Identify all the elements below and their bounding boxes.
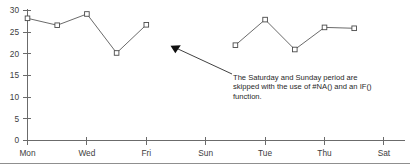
line-chart-canvas: 0 5 10 15 20 25 30 Mon Wed Fri Sun Tue T… xyxy=(0,0,410,167)
y-tick-label-5: 5 xyxy=(14,114,19,124)
x-tick-label-fri: Fri xyxy=(141,148,151,158)
data-point-tue-1 xyxy=(55,23,60,28)
y-tick-label-10: 10 xyxy=(10,92,20,102)
y-tick-label-0: 0 xyxy=(14,135,19,145)
data-point-thu-10 xyxy=(322,25,327,30)
chart-figure: 0 5 10 15 20 25 30 Mon Wed Fri Sun Tue T… xyxy=(0,0,410,167)
data-point-wed-9 xyxy=(293,47,298,52)
annotation-line-2: skipped with the use of #NA() and an IF(… xyxy=(233,82,372,91)
y-tick-label-20: 20 xyxy=(10,49,20,59)
data-point-wed-2 xyxy=(85,12,90,17)
data-point-mon-0 xyxy=(25,16,30,21)
x-tick-label-wed: Wed xyxy=(78,148,95,158)
y-tick-label-25: 25 xyxy=(10,27,20,37)
x-tick-label-sun: Sun xyxy=(198,148,213,158)
data-point-thu-3 xyxy=(114,51,119,56)
y-tick-label-30: 30 xyxy=(10,5,20,15)
data-point-mon-7 xyxy=(233,43,238,48)
x-tick-label-mon: Mon xyxy=(19,148,36,158)
data-point-tue-8 xyxy=(263,17,268,22)
annotation-line-3: function. xyxy=(233,92,262,101)
x-tick-label-thu: Thu xyxy=(317,148,332,158)
x-tick-label-tue: Tue xyxy=(258,148,272,158)
y-tick-label-15: 15 xyxy=(10,70,20,80)
annotation-line-1: The Saturday and Sunday period are xyxy=(233,73,358,82)
x-tick-label-sat: Sat xyxy=(378,148,391,158)
data-point-fri-4 xyxy=(144,23,149,28)
data-point-fri-11 xyxy=(352,26,357,31)
